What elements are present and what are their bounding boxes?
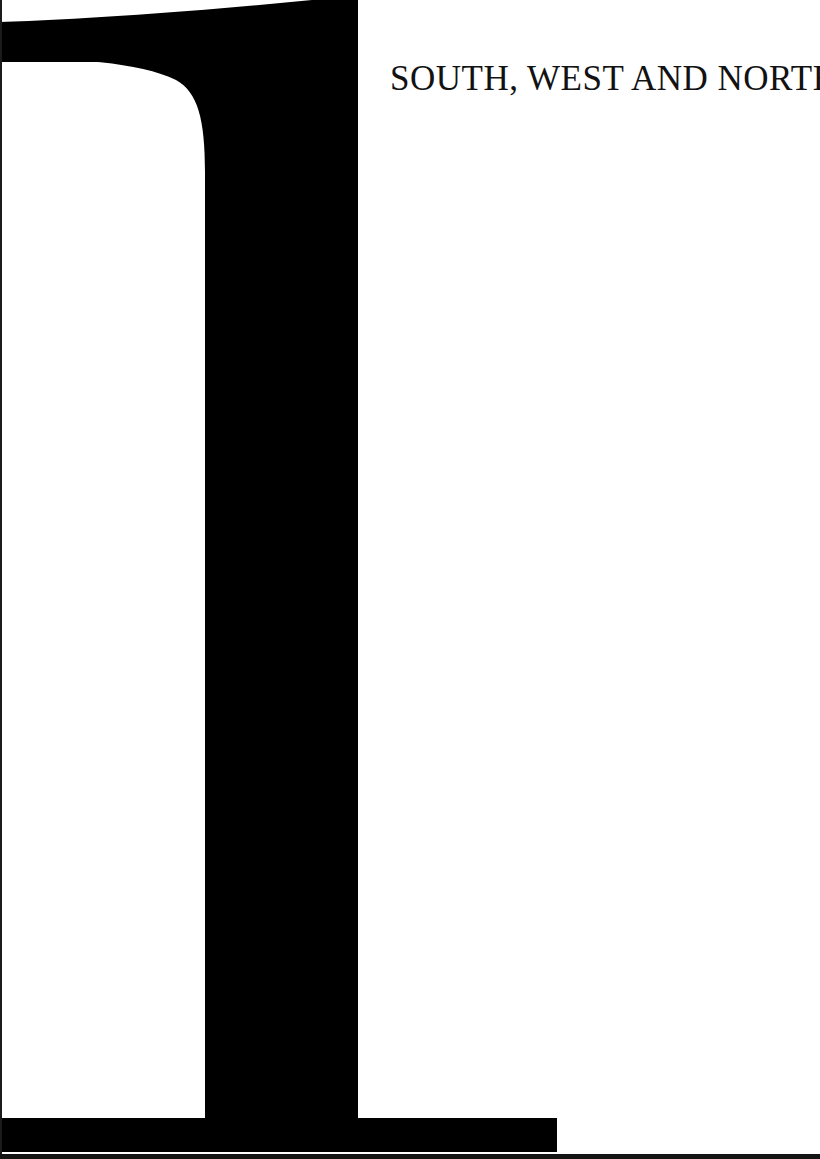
chapter-heading: SOUTH, WEST AND NORTH <box>390 59 796 99</box>
book-page: SOUTH, WEST AND NORTH <box>0 0 820 1159</box>
body-text-column <box>380 100 800 1100</box>
scan-edge-bottom <box>0 1154 820 1159</box>
scan-edge-left <box>0 0 2 1159</box>
left-margin-column <box>8 180 198 1090</box>
